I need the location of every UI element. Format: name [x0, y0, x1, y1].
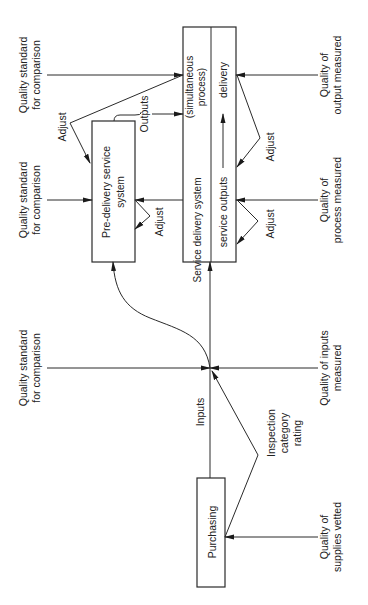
- outputs-label: Outputs: [138, 96, 150, 133]
- quality-control-diagram: Purchasing Pre-delivery service system S…: [0, 0, 368, 605]
- purchasing-label: Purchasing: [206, 506, 218, 559]
- adjust-output-label: Adjust: [264, 132, 276, 161]
- standard-top-line1: Quality standard: [17, 37, 29, 114]
- standard-middle-line2: for comparison: [30, 165, 42, 235]
- adjust-process-label: Adjust: [264, 209, 276, 238]
- supplies-vetted-line1: Quality of: [318, 515, 330, 559]
- standard-inputs-line2: for comparison: [30, 333, 42, 403]
- simultaneous-label-line1: (simultaneous: [184, 56, 195, 118]
- supplies-vetted-line2: supplies vetted: [331, 502, 343, 572]
- service-outputs-label: service outputs: [217, 177, 229, 248]
- process-measured-line1: Quality of: [318, 178, 330, 222]
- process-measured-line2: process measured: [331, 157, 343, 244]
- simultaneous-label-line2: process): [196, 68, 207, 106]
- inspection-line1: Inspection: [265, 409, 277, 457]
- inputs-measured-line1: Quality of inputs: [318, 330, 330, 405]
- adjust-pre-label: Adjust: [153, 207, 165, 236]
- inspection-line3: rating: [291, 420, 303, 446]
- adjust-pre-pointer: [135, 200, 150, 229]
- adjust-top-label: Adjust: [56, 112, 68, 141]
- pre-delivery-label-line2: system: [115, 176, 126, 208]
- pre-delivery-box: [92, 121, 135, 262]
- pre-delivery-outputs-bracket: [114, 112, 141, 121]
- service-delivery-system-label: Service delivery system: [192, 177, 203, 282]
- adjust-process-pointer: [237, 200, 258, 244]
- delivery-label: delivery: [217, 61, 229, 98]
- inputs-measured-line2: measured: [331, 345, 343, 392]
- output-measured-line2: output measured: [331, 35, 343, 114]
- output-measured-line1: Quality of: [318, 53, 330, 97]
- inspection-line2: category: [278, 412, 290, 453]
- standard-top-line2: for comparison: [30, 40, 42, 110]
- inputs-label: Inputs: [194, 398, 206, 427]
- pre-delivery-label-line1: Pre-delivery service: [100, 146, 112, 238]
- adjust-output-pointer: [237, 75, 260, 167]
- standard-inputs-line1: Quality standard: [17, 330, 29, 407]
- standard-middle-line1: Quality standard: [17, 162, 29, 239]
